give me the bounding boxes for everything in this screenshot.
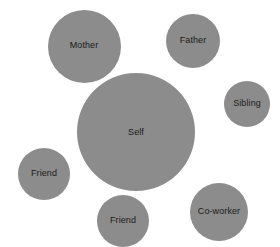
node-friend-left[interactable]: Friend xyxy=(18,148,70,200)
node-label-co-worker: Co-worker xyxy=(198,207,240,216)
node-label-sibling: Sibling xyxy=(233,99,261,108)
node-label-friend-bottom: Friend xyxy=(110,216,136,225)
node-label-mother: Mother xyxy=(70,41,99,50)
social-atom-diagram: MotherFatherSiblingSelfFriendFriendCo-wo… xyxy=(0,0,280,247)
node-label-friend-left: Friend xyxy=(31,169,57,178)
node-label-self: Self xyxy=(128,128,144,137)
node-father[interactable]: Father xyxy=(166,14,220,68)
node-self[interactable]: Self xyxy=(77,73,195,191)
node-label-father: Father xyxy=(180,36,207,45)
node-co-worker[interactable]: Co-worker xyxy=(190,183,248,241)
node-friend-bottom[interactable]: Friend xyxy=(97,195,149,247)
node-mother[interactable]: Mother xyxy=(48,10,121,83)
node-sibling[interactable]: Sibling xyxy=(224,81,270,127)
